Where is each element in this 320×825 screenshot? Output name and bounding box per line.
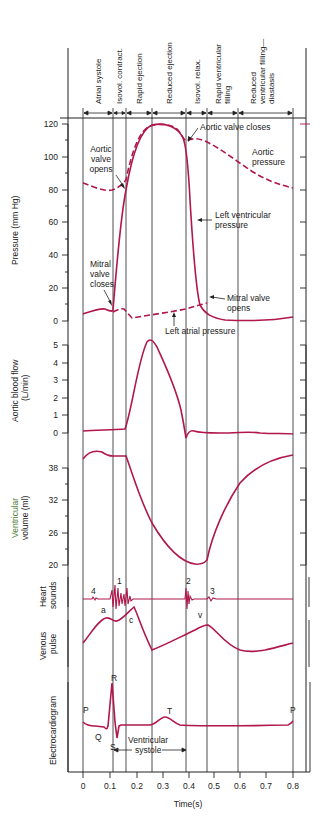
volume-axis-label-units: volume (ml) [20,495,30,540]
heart-sounds-label: Heart [38,586,48,607]
svg-text:T: T [167,706,172,716]
svg-text:0.2: 0.2 [131,781,143,791]
volume-axis [62,468,306,565]
volume-tick-labels: 38 32 26 20 [49,463,59,570]
svg-text:1: 1 [117,576,122,586]
svg-text:100: 100 [44,152,58,162]
svg-text:4: 4 [53,358,58,368]
svg-text:0: 0 [53,428,58,438]
venous-pulse-label: Venous [38,632,48,660]
svg-text:valve: valve [90,269,110,279]
svg-text:5: 5 [53,340,58,350]
svg-text:20: 20 [49,560,59,570]
svg-text:Mitral: Mitral [90,259,111,269]
la-pressure-trace [113,303,207,318]
svg-text:32: 32 [49,495,59,505]
venous-pulse-axis [68,620,309,667]
svg-text:opens: opens [89,164,112,174]
phase-arrows [84,111,292,115]
phase-reduced-filling-3: diastasis [267,73,276,104]
svg-text:38: 38 [49,463,59,473]
svg-text:0: 0 [81,781,86,791]
svg-text:a: a [101,605,106,615]
svg-text:3: 3 [53,375,58,385]
svg-text:80: 80 [49,185,59,195]
flow-tick-labels: 5 4 3 2 1 0 [53,340,58,438]
heart-sound-labels: 4 1 2 3 [91,576,215,596]
ventricular-volume-trace [83,451,293,564]
svg-text:20: 20 [49,283,59,293]
svg-text:P: P [290,705,296,715]
pressure-tick-labels: 120 100 80 60 40 20 0 [44,119,58,326]
svg-text:Aortic: Aortic [90,144,112,154]
phase-reduced-filling: Reduced [249,72,258,104]
svg-text:Aortic: Aortic [252,147,274,157]
pressure-axis-label: Pressure (mm Hg) [10,195,20,265]
svg-text:1: 1 [53,410,58,420]
svg-text:2: 2 [186,576,191,586]
svg-text:0.5: 0.5 [208,781,220,791]
phase-reduced-filling-2: ventricular filling— [258,39,267,104]
svg-text:0.7: 0.7 [260,781,272,791]
svg-text:pressure: pressure [252,157,285,167]
svg-text:Aortic valve closes: Aortic valve closes [200,122,270,132]
phase-labels: Atrial systole Isovol. contract. Rapid e… [94,39,276,104]
wiggers-diagram: Atrial systole Isovol. contract. Rapid e… [0,0,320,825]
flow-axis-label: Aortic blood flow [10,359,20,422]
phase-rapid-filling-2: filling [223,86,232,104]
flow-axis [62,345,306,433]
svg-text:0.4: 0.4 [183,781,195,791]
heart-sounds-label-2: sounds [48,582,58,609]
svg-text:opens: opens [227,303,250,313]
phase-atrial-systole: Atrial systole [94,58,103,104]
svg-text:v: v [198,610,203,620]
svg-text:0: 0 [53,316,58,326]
svg-text:2: 2 [53,393,58,403]
svg-text:0.6: 0.6 [234,781,246,791]
volume-axis-label: Ventricular [10,498,20,538]
phase-reduced-ejection: Reduced ejection [165,42,174,104]
svg-text:Left atrial pressure: Left atrial pressure [165,326,236,336]
time-axis-labels: 0 0.1 0.2 0.3 0.4 0.5 0.6 0.7 0.8 [81,781,300,791]
flow-axis-label-units: (L/min) [20,374,30,401]
phase-rapid-filling: Rapid ventricular [214,44,223,104]
svg-text:0.8: 0.8 [287,781,299,791]
phase-isovol-contract: Isovol. contract. [115,48,124,104]
svg-text:120: 120 [44,119,58,129]
phase-isovol-relax: Isovol. relax. [193,59,202,104]
svg-text:systole: systole [135,745,162,755]
svg-text:40: 40 [49,250,59,260]
ecg-trace [83,683,293,738]
svg-text:26: 26 [49,528,59,538]
aortic-flow-trace [83,340,293,438]
svg-text:c: c [129,615,134,625]
svg-text:closes: closes [90,279,114,289]
svg-text:0.3: 0.3 [157,781,169,791]
time-axis-ticks [83,772,293,778]
svg-text:Q: Q [95,732,102,742]
svg-text:0.1: 0.1 [104,781,116,791]
time-axis-title: Time(s) [174,799,203,809]
svg-text:4: 4 [91,586,96,596]
pressure-annotations: Aortic valve opens Aortic valve closes A… [89,122,285,336]
svg-text:pressure: pressure [215,220,248,230]
svg-text:60: 60 [49,217,59,227]
svg-text:P: P [83,705,89,715]
svg-text:Left ventricular: Left ventricular [215,210,271,220]
svg-text:Mitral valve: Mitral valve [227,293,270,303]
svg-text:Ventricular: Ventricular [128,735,168,745]
venous-pulse-trace [83,607,293,652]
ecg-label: Electrocardiogram [48,696,58,765]
svg-text:valve: valve [91,154,111,164]
heart-sounds-trace [83,585,293,609]
svg-text:R: R [111,673,117,683]
phase-rapid-ejection: Rapid ejection [135,53,144,104]
venous-pulse-label-2: pulse [48,633,58,654]
svg-text:3: 3 [210,586,215,596]
